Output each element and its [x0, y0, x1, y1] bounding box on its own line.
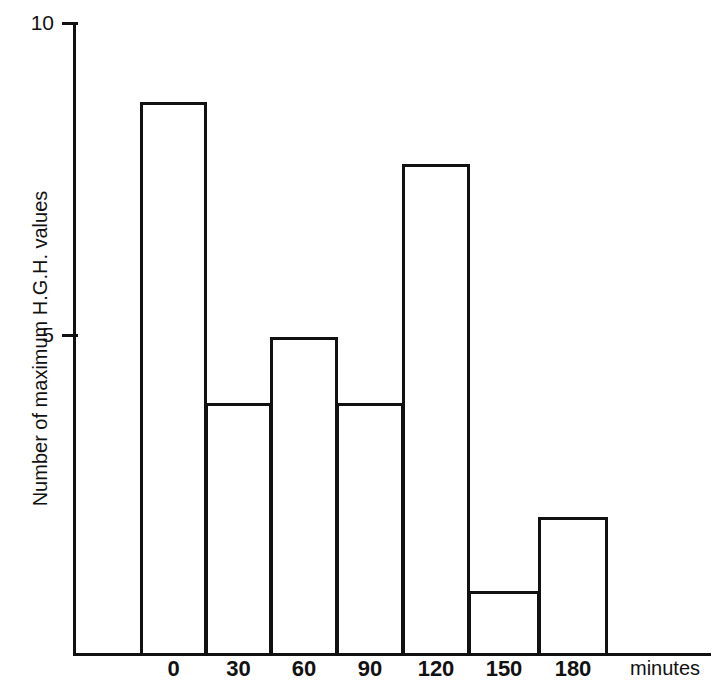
bar-120 [402, 164, 470, 656]
bars-layer [0, 0, 721, 696]
x-tick-label-90: 90 [336, 656, 404, 682]
x-tick-label-120: 120 [402, 656, 470, 682]
bar-150 [468, 591, 540, 656]
x-tick-label-180: 180 [538, 656, 608, 682]
x-tick-label-0: 0 [140, 656, 207, 682]
x-axis-title: minutes [630, 657, 700, 680]
bar-180 [538, 517, 608, 656]
bar-30 [205, 403, 272, 656]
bar-0 [140, 102, 207, 656]
x-tick-label-150: 150 [468, 656, 540, 682]
bar-60 [270, 337, 338, 656]
bar-90 [336, 403, 404, 656]
bar-chart-figure: 10 5 Number of maximum H.G.H. values 0 3… [0, 0, 721, 696]
x-tick-label-60: 60 [270, 656, 338, 682]
x-tick-label-30: 30 [205, 656, 272, 682]
